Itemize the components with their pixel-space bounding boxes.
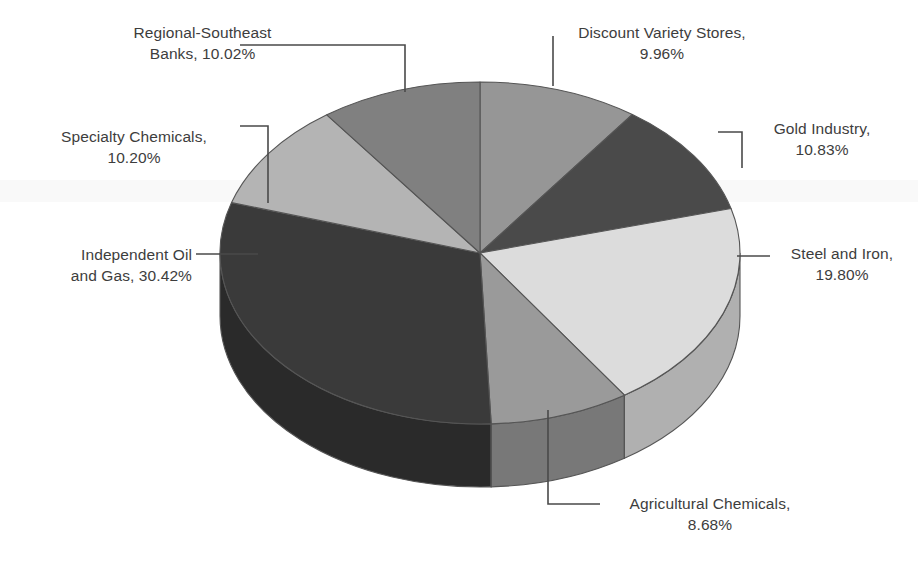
- label-independent-oil-and-gas: Independent Oil and Gas, 30.42%: [10, 244, 192, 286]
- label-discount-variety-stores: Discount Variety Stores, 9.96%: [562, 22, 762, 64]
- label-regional-southeast-banks: Regional-Southeast Banks, 10.02%: [110, 22, 295, 64]
- label-steel-and-iron: Steel and Iron, 19.80%: [772, 243, 912, 285]
- label-specialty-chemicals: Specialty Chemicals, 10.20%: [28, 126, 240, 168]
- label-gold-industry: Gold Industry, 10.83%: [752, 118, 892, 160]
- pie-chart-figure: Regional-Southeast Banks, 10.02% Special…: [0, 0, 918, 562]
- leader-line-gold-industry: [718, 132, 742, 168]
- pie-top-face: [220, 82, 740, 424]
- label-agricultural-chemicals: Agricultural Chemicals, 8.68%: [604, 493, 816, 535]
